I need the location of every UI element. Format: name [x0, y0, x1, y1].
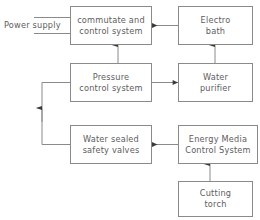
node-water-sealed-safety-valves-line-2: safety valves: [83, 145, 140, 156]
node-energy-media-control-system-line-1: Energy Media: [189, 134, 247, 145]
node-pressure-control-system[interactable]: Pressure control system: [70, 63, 152, 102]
power-supply-label-text: Power supply: [4, 20, 61, 30]
node-water-sealed-safety-valves[interactable]: Water sealed safety valves: [70, 125, 152, 164]
node-energy-media-control-system[interactable]: Energy Media Control System: [178, 125, 258, 164]
node-cutting-torch[interactable]: Cutting torch: [178, 181, 253, 217]
power-supply-label: Power supply: [4, 20, 61, 31]
node-commutate-and-control-system[interactable]: commutate and control system: [70, 6, 152, 45]
node-commutate-and-control-system-line-1: commutate and: [77, 15, 145, 26]
node-pressure-control-system-line-1: Pressure: [93, 72, 130, 83]
node-water-purifier-line-2: purifier: [200, 83, 231, 94]
node-pressure-control-system-line-2: control system: [79, 83, 142, 94]
node-cutting-torch-line-1: Cutting: [200, 188, 231, 199]
node-electro-bath-line-2: bath: [206, 26, 225, 37]
node-water-sealed-safety-valves-line-1: Water sealed: [83, 134, 139, 145]
block-flow-diagram: Power supply commutate and control syste…: [0, 0, 260, 220]
node-energy-media-control-system-line-2: Control System: [185, 145, 251, 156]
connector-water-sealed-valves-to-pressure-control: [42, 83, 70, 145]
node-electro-bath[interactable]: Electro bath: [178, 6, 253, 45]
node-electro-bath-line-1: Electro: [201, 15, 231, 26]
node-cutting-torch-line-2: torch: [204, 199, 226, 210]
node-commutate-and-control-system-line-2: control system: [79, 26, 142, 37]
node-water-purifier-line-1: Water: [203, 72, 228, 83]
node-water-purifier[interactable]: Water purifier: [178, 63, 253, 102]
